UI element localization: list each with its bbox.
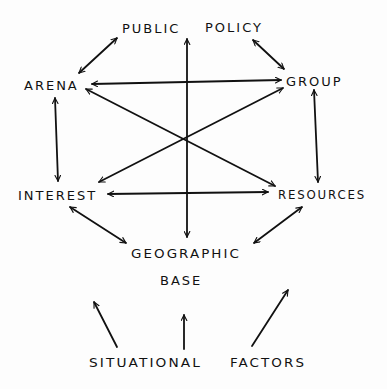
label-policy: POLICY [205, 20, 263, 35]
arrow-group-interest [99, 88, 283, 182]
arrow-policy-group [253, 40, 284, 69]
label-geographic: GEOGRAPHIC [131, 246, 241, 261]
arrow-interest-resources [108, 192, 268, 194]
arrow-factors-right [252, 290, 288, 346]
arrow-resources-geographic [254, 207, 302, 243]
arrow-arena-resources [86, 89, 275, 186]
label-situational: SITUATIONAL [89, 355, 202, 370]
label-arena: ARENA [24, 78, 79, 93]
label-interest: INTEREST [18, 188, 97, 203]
arrow-arena-interest [55, 98, 58, 181]
label-base: BASE [160, 273, 202, 288]
arrow-public-arena [79, 38, 117, 73]
arrow-situational-left [94, 302, 117, 347]
label-public: PUBLIC [122, 21, 180, 36]
diagram-canvas: PUBLIC POLICY ARENA GROUP INTEREST RESOU… [0, 0, 387, 389]
arrow-group-resources [314, 90, 318, 182]
label-factors: FACTORS [230, 355, 306, 370]
diagram-svg: PUBLIC POLICY ARENA GROUP INTEREST RESOU… [0, 0, 387, 389]
arrow-interest-geographic [70, 207, 126, 243]
label-group: GROUP [286, 74, 343, 89]
label-resources: RESOURCES [278, 187, 366, 202]
